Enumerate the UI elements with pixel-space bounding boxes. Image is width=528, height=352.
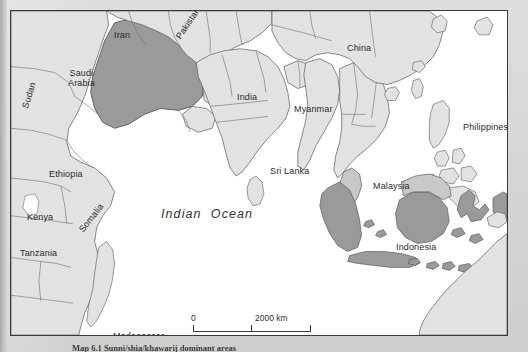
scale-bar-midpoint-tick bbox=[251, 325, 252, 332]
map-canvas: .land { fill:#e2e2e2; stroke:#585858; st… bbox=[11, 11, 507, 335]
map-frame: .land { fill:#e2e2e2; stroke:#585858; st… bbox=[10, 10, 508, 336]
scale-zero-label: 0 bbox=[191, 313, 196, 323]
scan-gutter bbox=[0, 0, 7, 352]
ocean-label: Indian Ocean bbox=[161, 207, 253, 221]
figure-page: .land { fill:#e2e2e2; stroke:#585858; st… bbox=[0, 0, 528, 352]
scale-bar: 0 2000 km bbox=[193, 313, 311, 336]
scale-max-label: 2000 km bbox=[255, 313, 288, 323]
figure-caption: Map 6.1 Sunni/shia/khawarij dominant are… bbox=[72, 343, 236, 352]
